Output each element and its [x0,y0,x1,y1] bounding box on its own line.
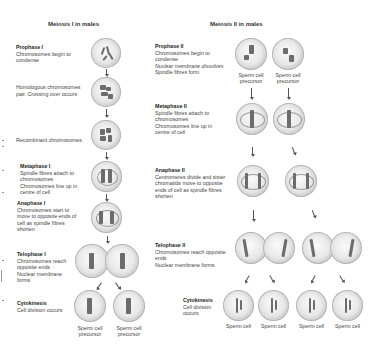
prophase-2-label: Prophase II Chromosomes begin to condens… [155,43,240,76]
arrow-down-right [339,275,343,282]
telophase-2-cell-2b [330,232,362,264]
arrow-down [253,210,254,220]
anaphase-1-cell [91,202,122,233]
sperm-cell-3 [296,290,327,321]
metaphase-2-cell-2 [273,103,305,135]
sperm-cell-caption-2: Sperm cell [257,323,290,329]
telophase-2-label: Telophase II Chromosomes reach opposite … [155,242,235,268]
prophase-2-cell-1 [235,38,267,70]
homologous-pair-label: Homologous chromosomes pair. Crossing ov… [16,84,96,97]
recombinant-cell [91,120,121,150]
arrow-down [251,88,252,98]
arrow-down [106,152,107,158]
cytokinesis-2-label: Cytokinesis Cell division occurs [183,297,228,317]
sperm-cell-caption-4: Sperm cell [331,323,364,329]
arrow-down-left [245,275,249,282]
precursor-caption-2: Sperm cell precursor [273,72,303,85]
arrow-down-right [115,282,120,288]
prophase-1-label: Prophase I Chromosomes begin to condense [16,44,91,64]
telophase-2-cell-1b [263,232,295,264]
arrow-down [106,109,107,116]
prophase-2-cell-2 [272,38,304,70]
sperm-precursor-caption-2: Sperm cell precursor [114,325,144,338]
anaphase-1-label: Anaphase I Chromosomes start to move to … [17,200,92,233]
metaphase-2-cell-1 [236,103,268,135]
meiosis-1-title: Meiosis I in males [48,21,99,27]
prophase-1-cell [91,38,121,68]
arrow-down [106,194,107,200]
anaphase-2-cell-2 [285,165,317,197]
arrow-down [252,147,253,155]
arrow-down-right [292,147,295,154]
metaphase-1-cell [91,161,122,192]
sperm-cell-caption-1: Sperm cell [222,323,255,329]
anaphase-2-cell-1 [237,165,269,197]
arrow-down [107,236,108,242]
metaphase-1-label: Metaphase I Spindle fibres attach to chr… [20,163,90,196]
anaphase-2-label: Anaphase II Centromeres divide and siste… [155,167,240,200]
arrow-down [288,88,289,98]
sperm-precursor-cell-1 [74,290,106,322]
metaphase-2-label: Metaphase II Spindle fibres attach to ch… [155,103,235,136]
arrow-down-left [311,275,315,282]
sperm-cell-2 [258,290,289,321]
sperm-precursor-cell-2 [113,290,145,322]
meiosis-2-title: Meiosis II in males [210,21,263,27]
arrow-down [106,69,107,75]
homologous-pair-cell [91,77,121,107]
arrow-down-right [269,275,273,282]
sperm-cell-caption-3: Sperm cell [295,323,328,329]
sperm-cell-1 [223,290,254,321]
precursor-caption-1: Sperm cell precursor [236,72,266,85]
telophase-1-cell-left [75,244,109,278]
recombinant-label: Recombinant chromosomes [16,137,96,144]
sperm-precursor-caption-1: Sperm cell precursor [75,325,105,338]
arrow-down-right [312,210,315,217]
sperm-cell-4 [332,290,363,321]
telophase-1-label: Telophase I Chromosomes reach opposite e… [17,251,77,284]
telophase-1-cell-right [105,244,139,278]
arrow-down-left [97,282,102,288]
